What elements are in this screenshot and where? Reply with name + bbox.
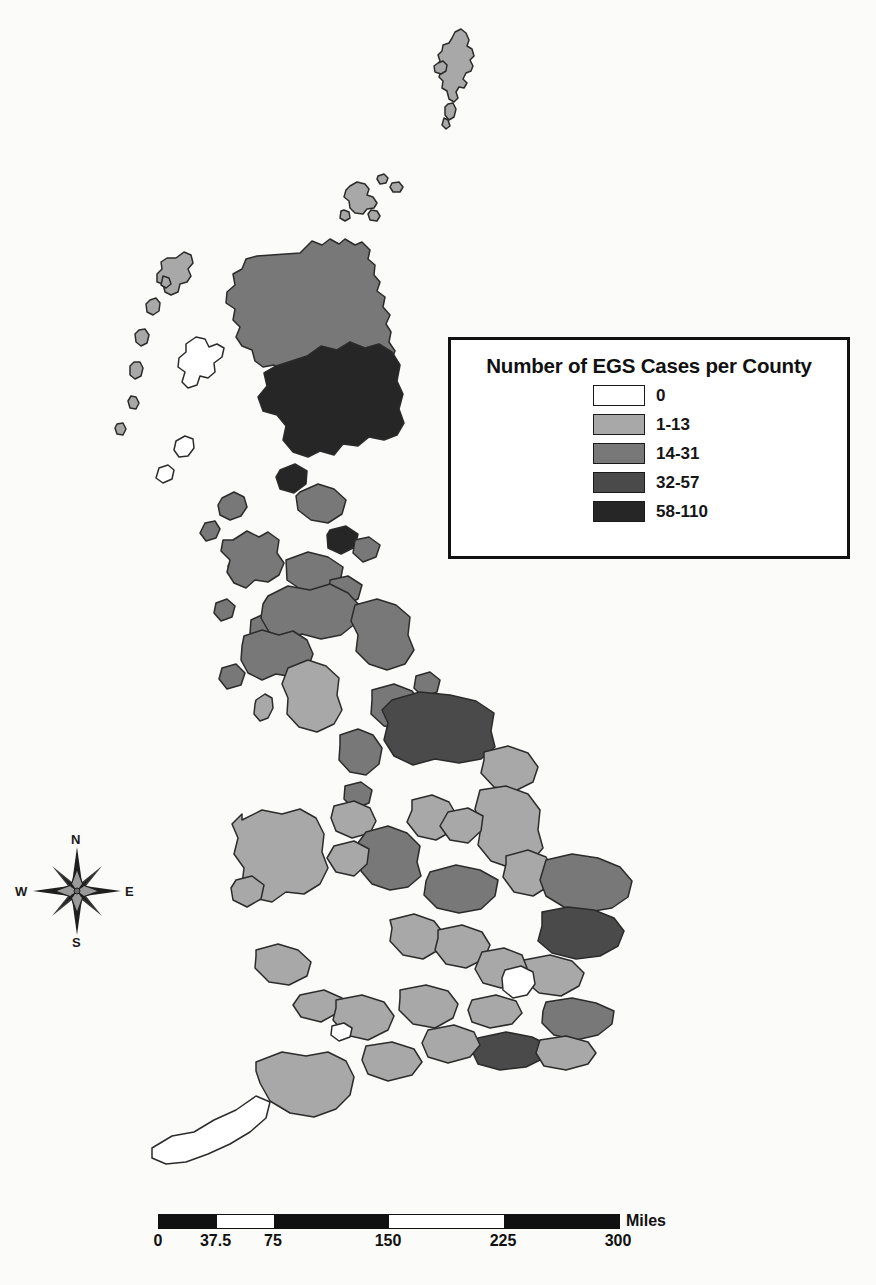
region-greater-london xyxy=(502,966,535,998)
legend-label-4: 58-110 xyxy=(656,503,708,520)
region-skye xyxy=(156,337,224,483)
map-legend: Number of EGS Cases per County 0 1-13 14… xyxy=(448,337,850,559)
scale-bar: 0 37.5 75 150 225 300 Miles xyxy=(158,1214,628,1264)
region-derbyshire xyxy=(407,795,483,843)
region-north-yorkshire xyxy=(382,692,495,765)
region-kent xyxy=(542,998,614,1040)
scale-segment xyxy=(159,1215,217,1228)
scale-segment xyxy=(504,1215,619,1228)
scale-tick-4: 225 xyxy=(490,1232,517,1250)
scale-bar-track xyxy=(158,1214,620,1229)
region-scottish-borders xyxy=(261,584,360,640)
region-shetland xyxy=(434,29,474,129)
legend-swatch-0 xyxy=(593,385,645,406)
legend-class-list: 0 1-13 14-31 32-57 58-110 xyxy=(451,384,847,522)
map-figure: .c{stroke:#2b2b2b;stroke-width:1.5;strok… xyxy=(0,0,876,1285)
legend-row: 32-57 xyxy=(593,471,847,493)
compass-label-north: N xyxy=(71,832,80,847)
compass-rose-icon xyxy=(14,832,140,950)
legend-row: 58-110 xyxy=(593,500,847,522)
legend-label-3: 32-57 xyxy=(656,474,699,491)
legend-label-2: 14-31 xyxy=(656,445,699,462)
legend-swatch-4 xyxy=(593,501,645,522)
compass-rose: N S W E xyxy=(14,832,140,950)
compass-label-east: E xyxy=(125,884,134,899)
region-devon xyxy=(256,1052,354,1117)
legend-row: 0 xyxy=(593,384,847,406)
region-western-isles xyxy=(115,252,193,435)
legend-swatch-2 xyxy=(593,443,645,464)
legend-label-1: 1-13 xyxy=(656,416,690,433)
scale-tick-2: 75 xyxy=(264,1232,282,1250)
scale-tick-0: 0 xyxy=(154,1232,163,1250)
legend-row: 14-31 xyxy=(593,442,847,464)
region-orkney xyxy=(340,174,403,221)
region-suffolk xyxy=(538,907,624,959)
region-aberdeenshire xyxy=(258,342,404,554)
legend-label-0: 0 xyxy=(656,387,665,404)
scale-tick-1: 37.5 xyxy=(200,1232,231,1250)
region-east-riding xyxy=(481,746,538,791)
region-cumbria xyxy=(282,660,342,732)
map-regions xyxy=(115,29,632,1164)
legend-swatch-1 xyxy=(593,414,645,435)
scale-tick-3: 150 xyxy=(375,1232,402,1250)
region-wales xyxy=(231,809,342,1022)
region-warwickshire xyxy=(424,865,498,913)
scale-units-label: Miles xyxy=(626,1212,666,1230)
compass-label-south: S xyxy=(72,935,81,950)
scale-segment xyxy=(274,1215,389,1228)
region-isle-of-man xyxy=(254,694,273,721)
region-bristol xyxy=(331,1023,352,1041)
compass-label-west: W xyxy=(15,884,27,899)
region-norfolk xyxy=(540,854,632,912)
region-cornwall xyxy=(152,1096,270,1164)
basemap-svg: .c{stroke:#2b2b2b;stroke-width:1.5;strok… xyxy=(0,0,876,1285)
legend-swatch-3 xyxy=(593,472,645,493)
scale-tick-5: 300 xyxy=(605,1232,632,1250)
region-northumberland xyxy=(351,599,414,670)
legend-row: 1-13 xyxy=(593,413,847,435)
legend-title: Number of EGS Cases per County xyxy=(451,354,847,378)
region-lancashire xyxy=(339,729,382,809)
